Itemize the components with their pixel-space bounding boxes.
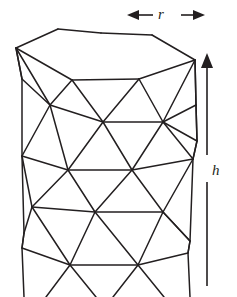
figure-container: r h: [0, 0, 237, 297]
top-cap-outline: [16, 29, 195, 80]
mesh-band-4: [22, 207, 190, 297]
radius-label: r: [158, 7, 164, 22]
mesh-band-1: [16, 48, 196, 122]
mesh-diagram: [0, 0, 237, 297]
height-label: h: [212, 163, 220, 178]
silhouette-edges: [16, 48, 197, 297]
radius-dimension-arrow: [127, 10, 205, 20]
